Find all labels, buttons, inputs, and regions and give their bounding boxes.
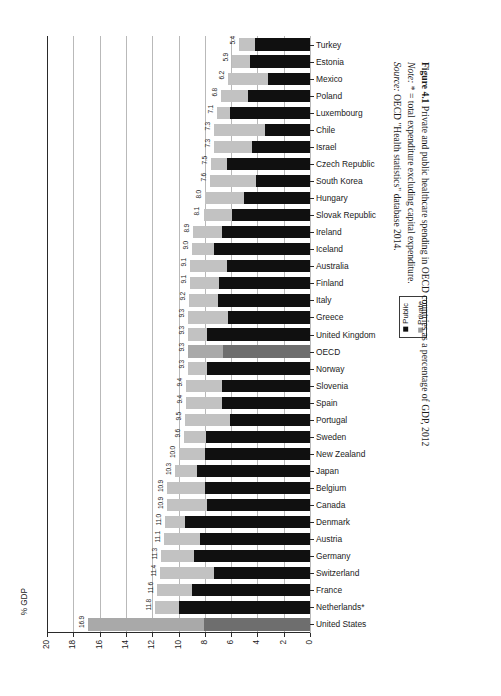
- category-tick: [310, 317, 314, 318]
- x-tick-0: [310, 633, 311, 637]
- category-tick: [310, 539, 314, 540]
- bar-segment-private: [155, 601, 179, 613]
- bar-segment-private: [193, 226, 222, 238]
- bar-value-label: 8.9: [184, 224, 191, 233]
- source-text: OECD "Health statistics" database 2014.: [392, 94, 403, 251]
- bar-segment-private: [217, 107, 230, 119]
- bar-value-label: 9.6: [175, 429, 182, 438]
- category-tick: [310, 300, 314, 301]
- category-label: United Kingdom: [316, 331, 376, 339]
- bar-segment-private: [188, 328, 208, 340]
- stacked-bar: [190, 260, 310, 272]
- chart-plot-area: 5.45.96.26.87.17.37.37.57.68.08.18.99.09…: [47, 36, 310, 633]
- bar-row: [47, 141, 310, 153]
- category-label: OECD: [316, 348, 340, 356]
- x-tick-20: [47, 633, 48, 637]
- stacked-bar: [228, 73, 310, 85]
- x-tick-6: [231, 633, 232, 637]
- bar-value-label: 10.9: [158, 480, 165, 492]
- stacked-bar: [204, 209, 311, 221]
- bar-value-label: 9.4: [177, 395, 184, 404]
- bar-value-label: 5.4: [230, 36, 237, 45]
- bar-row: [47, 226, 310, 238]
- bar-row: [47, 277, 310, 289]
- bar-segment-public: [206, 431, 310, 443]
- bar-segment-public: [222, 397, 310, 409]
- category-tick: [310, 505, 314, 506]
- bar-segment-private: [164, 533, 200, 545]
- stacked-bar: [186, 380, 310, 392]
- bar-row: [47, 73, 310, 85]
- bar-segment-public: [219, 277, 310, 289]
- stacked-bar: [210, 175, 310, 187]
- bar-segment-public: [214, 243, 310, 255]
- category-label: Belgium: [316, 484, 346, 492]
- bar-row: [47, 567, 310, 579]
- bar-segment-public: [204, 618, 311, 630]
- category-label: Portugal: [316, 416, 347, 424]
- category-tick: [310, 437, 314, 438]
- bar-row: [47, 601, 310, 613]
- category-label: Norway: [316, 365, 344, 373]
- category-label: New Zealand: [316, 450, 365, 458]
- category-label: Poland: [316, 92, 342, 100]
- stacked-bar: [160, 567, 310, 579]
- category-tick: [310, 62, 314, 63]
- stacked-bar: [165, 516, 310, 528]
- category-label: Chile: [316, 126, 335, 134]
- category-tick: [310, 198, 314, 199]
- category-tick: [310, 96, 314, 97]
- figure-title: Private and public healthcare spending i…: [420, 106, 431, 446]
- category-tick: [310, 590, 314, 591]
- category-tick: [310, 266, 314, 267]
- bar-row: [47, 175, 310, 187]
- bar-segment-private: [204, 209, 233, 221]
- bar-segment-private: [190, 277, 219, 289]
- bar-segment-private: [167, 482, 205, 494]
- category-tick: [310, 249, 314, 250]
- bar-row: [47, 209, 310, 221]
- category-label: Estonia: [316, 58, 344, 66]
- x-tick-18: [73, 633, 74, 637]
- bar-segment-private: [214, 124, 265, 136]
- bar-value-label: 9.1: [181, 258, 188, 267]
- y-axis-label: % GDP: [20, 588, 29, 615]
- category-tick: [310, 624, 314, 625]
- bar-segment-private: [165, 516, 185, 528]
- bar-segment-public: [255, 38, 310, 50]
- bar-value-label: 11.3: [152, 548, 159, 560]
- bar-segment-public: [228, 311, 310, 323]
- bar-segment-private: [188, 311, 229, 323]
- stacked-bar: [167, 482, 310, 494]
- category-tick: [310, 556, 314, 557]
- bar-segment-public: [214, 567, 310, 579]
- bar-value-label: 9.3: [179, 343, 186, 352]
- category-tick: [310, 130, 314, 131]
- bar-row: [47, 584, 310, 596]
- bar-segment-private: [192, 243, 214, 255]
- caption-note-line: Note: * = total expenditure excluding ca…: [404, 62, 418, 562]
- category-label: Iceland: [316, 245, 343, 253]
- category-tick: [310, 454, 314, 455]
- x-tick-4: [257, 633, 258, 637]
- figure-number: Figure 4.1: [420, 62, 431, 103]
- bar-value-label: 16.9: [79, 616, 86, 628]
- x-tick-label-4: 4: [253, 640, 261, 645]
- bar-segment-public: [218, 294, 310, 306]
- caption-source-line: Source: OECD "Health statistics" databas…: [390, 62, 404, 562]
- bar-segment-private: [221, 90, 249, 102]
- category-label: United States: [316, 620, 366, 628]
- bar-segment-public: [256, 175, 310, 187]
- bar-value-label: 10.3: [166, 463, 173, 475]
- stacked-bar: [179, 448, 311, 460]
- bar-value-label: 11.0: [156, 514, 163, 526]
- category-label: Netherlands*: [316, 603, 364, 611]
- bar-value-label: 11.4: [151, 565, 158, 577]
- bar-segment-private: [210, 175, 256, 187]
- bar-row: [47, 448, 310, 460]
- stacked-bar: [167, 499, 310, 511]
- bar-segment-private: [157, 584, 191, 596]
- category-label: South Korea: [316, 177, 363, 185]
- x-axis-ticks: 20181614121086420: [47, 633, 310, 667]
- caption-title-line: Figure 4.1 Private and public healthcare…: [418, 62, 432, 562]
